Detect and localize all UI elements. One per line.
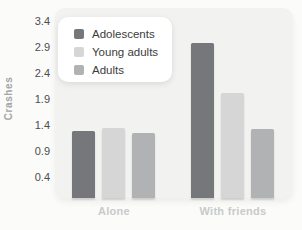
y-tick-label: 1.9 [15,92,50,106]
crashes-bar-chart: Crashes 3.42.92.41.91.40.90.4 Alone With… [0,0,302,230]
y-tick-label: 3.4 [15,14,50,28]
y-tick-label: 1.4 [15,118,50,132]
legend-label: Adults [92,64,124,76]
y-tick-label: 0.9 [15,144,50,158]
legend-label: Young adults [92,46,158,58]
bar-young-adults-with-friends [221,93,244,198]
legend: Adolescents Young adults Adults [58,17,172,82]
x-category-alone: Alone [98,205,130,217]
bar-adolescents-with-friends [191,43,214,198]
y-tick-label: 0.4 [15,170,50,184]
legend-item-adolescents: Adolescents [74,25,172,43]
y-axis-label: Crashes [3,64,14,134]
young-adults-swatch-icon [74,47,84,57]
adolescents-swatch-icon [74,29,84,39]
y-tick-label: 2.9 [15,40,50,54]
x-category-with-friends: With friends [199,205,266,217]
legend-item-young-adults: Young adults [74,43,172,61]
bar-young-adults-alone [102,128,125,198]
legend-item-adults: Adults [74,61,172,79]
adults-swatch-icon [74,65,84,75]
y-tick-label: 2.4 [15,66,50,80]
bar-adults-alone [132,133,155,198]
bar-adolescents-alone [72,131,95,198]
legend-label: Adolescents [92,28,155,40]
bar-adults-with-friends [251,129,274,198]
